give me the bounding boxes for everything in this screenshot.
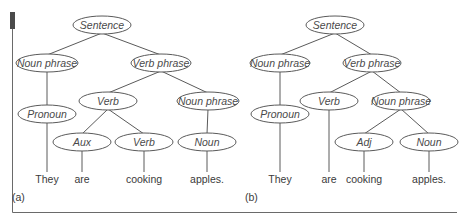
- tree-node-adj: Adj: [335, 133, 393, 151]
- tree-panel-b: SentenceNoun phraseVerb phrasePronounVer…: [245, 16, 458, 203]
- node-label: Noun phrase: [250, 57, 310, 69]
- sentence-word: apples.: [412, 173, 446, 185]
- tree-edge: [280, 33, 335, 55]
- sentence-word: They: [268, 173, 292, 185]
- tree-node-sentence: Sentence: [73, 16, 131, 34]
- tree-edge: [161, 71, 208, 93]
- node-label: Aux: [72, 136, 92, 148]
- tree-node-verb: Verb: [79, 92, 137, 110]
- tree-edge: [364, 109, 401, 134]
- tree-edge: [47, 33, 102, 55]
- node-label: Verb: [318, 95, 340, 107]
- sentence-word: are: [321, 173, 336, 185]
- node-label: Noun phrase: [371, 95, 431, 107]
- tree-edge: [108, 71, 161, 93]
- tree-node-noun: Noun: [178, 133, 236, 151]
- sentence-word: cooking: [346, 173, 382, 185]
- tree-node-pronoun: Pronoun: [251, 105, 309, 123]
- tree-node-noun-phrase: Noun phrase: [16, 54, 78, 72]
- node-label: Noun phrase: [178, 95, 238, 107]
- tree-node-aux: Aux: [53, 133, 111, 151]
- tree-node-noun-phrase: Noun phrase: [177, 92, 239, 110]
- tree-edge: [329, 71, 372, 93]
- tree-edge: [82, 109, 108, 134]
- tree-edge: [207, 109, 208, 134]
- tree-panel-a: SentenceNoun phraseVerb phrasePronounVer…: [12, 16, 239, 203]
- panel-label: (b): [245, 191, 258, 203]
- node-label: Sentence: [80, 19, 125, 31]
- node-label: Noun: [416, 136, 441, 148]
- node-label: Sentence: [313, 19, 358, 31]
- node-label: Noun phrase: [17, 57, 77, 69]
- sentence-word: apples.: [190, 173, 224, 185]
- tree-node-noun-phrase: Noun phrase: [371, 92, 431, 110]
- tree-edge: [372, 71, 401, 93]
- tree-edge: [108, 109, 144, 134]
- tree-node-verb: Verb: [115, 133, 173, 151]
- tree-node-verb-phrase: Verb phrase: [131, 54, 191, 72]
- tree-node-verb-phrase: Verb phrase: [343, 54, 401, 72]
- tree-node-verb: Verb: [300, 92, 358, 110]
- sentence-word: cooking: [126, 173, 162, 185]
- tree-node-pronoun: Pronoun: [18, 105, 76, 123]
- node-label: Verb phrase: [133, 57, 190, 69]
- node-label: Adj: [355, 136, 372, 148]
- sentence-word: are: [74, 173, 89, 185]
- node-label: Pronoun: [27, 108, 67, 120]
- tree-node-sentence: Sentence: [306, 16, 364, 34]
- tree-node-noun-phrase: Noun phrase: [250, 54, 310, 72]
- node-label: Pronoun: [260, 108, 300, 120]
- sentence-word: They: [35, 173, 59, 185]
- parse-tree-diagram: SentenceNoun phraseVerb phrasePronounVer…: [0, 0, 471, 223]
- node-label: Verb: [97, 95, 119, 107]
- panel-label: (a): [12, 191, 25, 203]
- node-label: Verb: [133, 136, 155, 148]
- tree-edge: [335, 33, 372, 55]
- tree-node-noun: Noun: [400, 133, 458, 151]
- node-label: Noun: [194, 136, 219, 148]
- node-label: Verb phrase: [344, 57, 401, 69]
- tree-edge: [401, 109, 429, 134]
- tree-edge: [102, 33, 161, 55]
